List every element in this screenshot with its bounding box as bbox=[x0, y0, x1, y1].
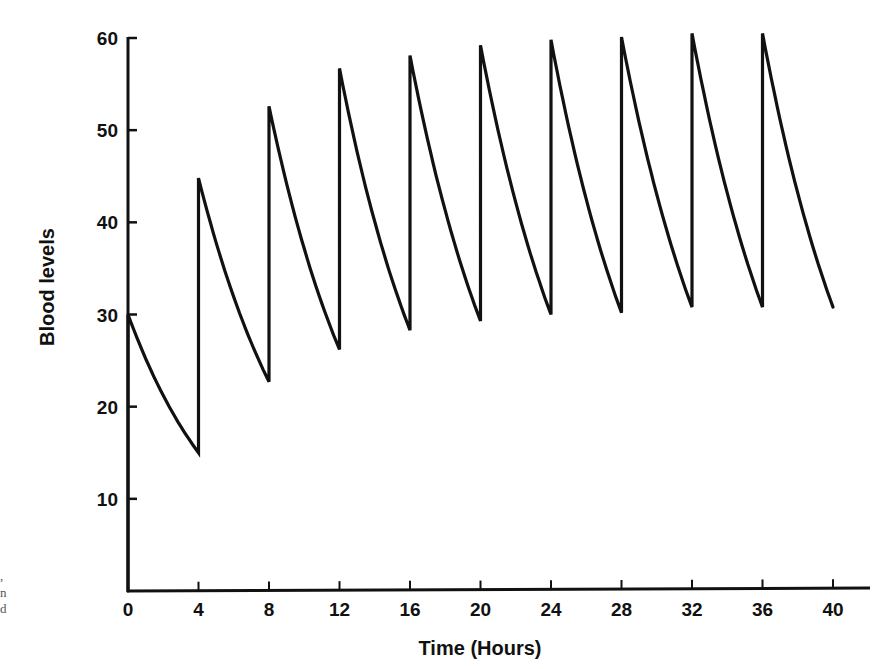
blood-level-line bbox=[128, 33, 833, 591]
x-tick-label: 12 bbox=[329, 599, 350, 620]
x-tick-label: 32 bbox=[681, 599, 702, 620]
y-tick-label: 20 bbox=[97, 397, 118, 418]
y-tick-label: 10 bbox=[97, 489, 118, 510]
y-tick-label: 30 bbox=[97, 305, 118, 326]
x-tick-label: 0 bbox=[123, 599, 134, 620]
x-tick-label: 4 bbox=[193, 599, 204, 620]
x-tick-label: 24 bbox=[540, 599, 562, 620]
x-axis-ticks: 0481216202428323640 bbox=[123, 579, 844, 620]
y-tick-label: 40 bbox=[97, 212, 118, 233]
x-tick-label: 8 bbox=[264, 599, 275, 620]
x-axis-line bbox=[127, 588, 870, 591]
y-tick-label: 60 bbox=[97, 28, 118, 49]
y-tick-label: 50 bbox=[97, 120, 118, 141]
x-tick-label: 36 bbox=[752, 599, 773, 620]
x-tick-label: 28 bbox=[611, 599, 632, 620]
x-tick-label: 16 bbox=[399, 599, 420, 620]
y-axis-title: Blood levels bbox=[36, 228, 58, 346]
y-axis-ticks: 102030405060 bbox=[97, 28, 137, 510]
blood-level-chart: 102030405060 0481216202428323640 Time (H… bbox=[0, 0, 883, 669]
x-axis-title: Time (Hours) bbox=[419, 637, 542, 659]
x-tick-label: 40 bbox=[822, 599, 843, 620]
x-tick-label: 20 bbox=[470, 599, 491, 620]
